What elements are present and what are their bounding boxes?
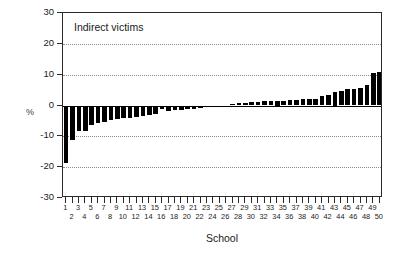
bar: [269, 101, 274, 105]
x-tick-label: 25: [215, 204, 223, 212]
bar: [320, 96, 325, 106]
x-tick-label: 15: [151, 204, 159, 212]
bar: [153, 106, 158, 115]
x-tick-label: 17: [163, 204, 171, 212]
x-tick-label: 39: [304, 204, 312, 212]
x-tick-label: 49: [368, 204, 376, 212]
x-tick-label: 22: [195, 213, 203, 221]
bar: [307, 99, 312, 105]
y-tick-label: -10: [40, 130, 54, 140]
x-tick-label: 1: [63, 204, 67, 212]
bar: [160, 106, 165, 109]
x-tick-label: 45: [343, 204, 351, 212]
bar: [243, 103, 248, 106]
x-tick-label: 41: [317, 204, 325, 212]
chart-title: Indirect victims: [74, 21, 143, 33]
x-tick-label: 16: [157, 213, 165, 221]
bar: [96, 106, 101, 123]
x-tick-label: 40: [311, 213, 319, 221]
bar: [185, 106, 190, 110]
y-tick-label: -30: [40, 192, 54, 202]
bar: [77, 106, 82, 132]
bar: [358, 88, 363, 106]
x-tick-label: 43: [330, 204, 338, 212]
bar: [333, 92, 338, 106]
bar: [301, 99, 306, 105]
x-tick-label: 18: [170, 213, 178, 221]
x-tick-label: 8: [108, 213, 112, 221]
y-tick-label: 20: [43, 38, 54, 48]
x-tick-label: 32: [259, 213, 267, 221]
x-tick-label: 6: [95, 213, 99, 221]
bar: [262, 101, 267, 105]
x-tick-label: 3: [76, 204, 80, 212]
x-tick-label: 12: [131, 213, 139, 221]
bar: [339, 91, 344, 105]
bar-series: [63, 13, 381, 196]
bar: [352, 89, 357, 106]
bar: [173, 106, 178, 111]
bar: [192, 106, 197, 109]
x-tick-label: 2: [70, 213, 74, 221]
x-tick-label: 35: [279, 204, 287, 212]
x-tick-label: 33: [266, 204, 274, 212]
x-tick-label: 50: [375, 213, 383, 221]
bar: [198, 106, 203, 108]
x-tick-label: 48: [362, 213, 370, 221]
x-tick-label: 38: [298, 213, 306, 221]
bar: [147, 106, 152, 116]
bar: [115, 106, 120, 120]
bar: [83, 106, 88, 132]
bar: [281, 101, 286, 106]
bar: [211, 106, 216, 107]
x-tick-label: 26: [221, 213, 229, 221]
chart-figure: % 3020100-10-20-30 Indirect victims 1234…: [0, 0, 396, 257]
bar: [217, 106, 222, 107]
x-tick-label: 10: [119, 213, 127, 221]
bar: [365, 85, 370, 105]
bar: [224, 106, 229, 107]
bar: [275, 101, 280, 106]
x-tick-label: 20: [183, 213, 191, 221]
x-tick-label: 9: [114, 204, 118, 212]
x-tick-label: 21: [189, 204, 197, 212]
bar: [102, 106, 107, 122]
plot-area: Indirect victims: [62, 12, 382, 197]
x-tick-label: 24: [208, 213, 216, 221]
bar: [64, 106, 69, 164]
x-tick-label: 44: [336, 213, 344, 221]
x-tick-label: 7: [102, 204, 106, 212]
y-tick-label: -20: [40, 161, 54, 171]
bar: [326, 95, 331, 105]
bar: [89, 106, 94, 126]
bar: [371, 73, 376, 105]
x-tick-label: 11: [125, 204, 133, 212]
bar: [313, 99, 318, 106]
x-tick-label: 4: [82, 213, 86, 221]
bar: [134, 106, 139, 117]
bar: [294, 100, 299, 106]
x-tick-label: 34: [272, 213, 280, 221]
bar: [121, 106, 126, 119]
x-tick-label: 42: [323, 213, 331, 221]
x-tick-label: 5: [89, 204, 93, 212]
bar: [230, 104, 235, 105]
x-tick-label: 46: [349, 213, 357, 221]
y-tick-label: 30: [43, 7, 54, 17]
x-tick-label: 14: [144, 213, 152, 221]
bar: [237, 103, 242, 105]
x-axis-tick-labels: 1234567891011121314151617181920212223242…: [62, 203, 382, 225]
x-tick-label: 37: [291, 204, 299, 212]
bar: [128, 106, 133, 118]
y-tick-label: 10: [43, 69, 54, 79]
bar: [109, 106, 114, 121]
x-tick-label: 31: [253, 204, 261, 212]
x-tick-label: 27: [227, 204, 235, 212]
x-tick-label: 23: [202, 204, 210, 212]
y-axis-ticks: 3020100-10-20-30: [0, 0, 62, 257]
bar: [70, 106, 75, 141]
x-tick-label: 47: [355, 204, 363, 212]
bar: [141, 106, 146, 116]
x-tick-label: 19: [176, 204, 184, 212]
bar: [256, 102, 261, 106]
